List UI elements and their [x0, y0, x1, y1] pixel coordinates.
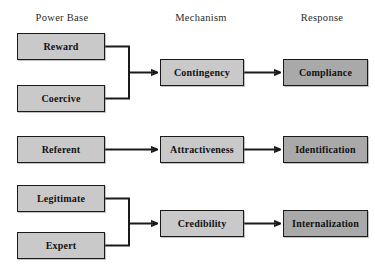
node-compliance[interactable]: Compliance: [283, 59, 368, 86]
connector-reward-coercive-to-contingency: [105, 47, 157, 99]
column-header-mechanism: Mechanism: [175, 12, 227, 23]
node-coercive[interactable]: Coercive: [17, 85, 105, 112]
diagram-canvas: Power Base Mechanism Response Reward Coe…: [0, 0, 375, 271]
node-internalization[interactable]: Internalization: [283, 210, 368, 237]
node-contingency[interactable]: Contingency: [160, 59, 244, 86]
node-referent[interactable]: Referent: [17, 136, 105, 163]
node-identification[interactable]: Identification: [283, 136, 368, 163]
column-header-power-base: Power Base: [36, 12, 89, 23]
connector-legitimate-expert-to-credibility: [105, 199, 157, 246]
node-attractiveness[interactable]: Attractiveness: [160, 136, 244, 163]
column-header-response: Response: [301, 12, 344, 23]
node-credibility[interactable]: Credibility: [160, 210, 244, 237]
node-legitimate[interactable]: Legitimate: [17, 185, 105, 212]
node-expert[interactable]: Expert: [17, 232, 105, 259]
node-reward[interactable]: Reward: [17, 33, 105, 60]
